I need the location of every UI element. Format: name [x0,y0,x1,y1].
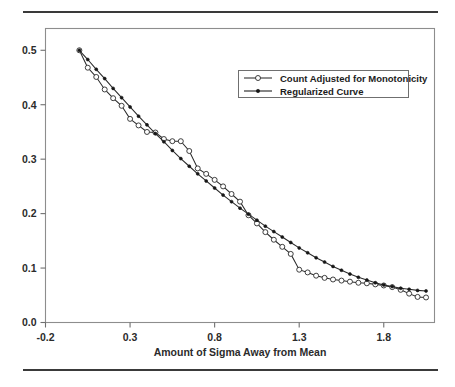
legend-label: Regularized Curve [280,86,363,97]
y-tick-label: 0.2 [22,207,37,219]
x-tick-label: 0.8 [207,331,222,343]
data-point-marker [230,200,233,203]
data-point-marker [213,187,216,190]
y-tick-label: 0.3 [22,153,37,165]
data-point-marker [357,276,360,279]
x-tick-label: 1.8 [376,331,391,343]
data-point-marker [171,149,174,152]
data-point-marker [238,199,243,204]
legend-sample-marker [256,89,259,92]
data-point-marker [322,275,327,280]
y-axis-ticks [41,50,46,322]
data-point-marker [424,295,429,300]
data-point-marker [212,177,217,182]
data-point-marker [425,289,428,292]
data-point-marker [179,157,182,160]
data-point-marker [111,96,116,101]
data-point-marker [221,184,226,189]
y-tick-label: 0.0 [22,316,37,328]
data-point-marker [136,123,141,128]
chart-legend: Count Adjusted for MonotonicityRegulariz… [239,71,429,98]
data-point-marker [297,267,302,272]
data-point-marker [145,123,148,126]
x-tick-label: 1.3 [292,331,307,343]
data-point-marker [399,287,402,290]
data-point-marker [331,277,336,282]
data-point-marker [103,77,106,80]
data-point-marker [271,237,276,242]
x-axis-title: Amount of Sigma Away from Mean [154,346,327,358]
data-point-marker [315,256,318,259]
y-tick-label: 0.5 [22,44,37,56]
data-point-marker [85,65,90,70]
y-tick-label: 0.1 [22,262,37,274]
data-point-marker [128,116,133,121]
data-point-marker [391,285,394,288]
data-point-marker [187,149,192,154]
data-point-marker [264,225,267,228]
data-point-marker [120,96,123,99]
data-point-marker [280,244,285,249]
chart-area: -0.20.30.81.31.8 0.00.10.20.30.40.5 Coun… [0,0,455,387]
x-tick-label: -0.2 [36,331,54,343]
data-point-marker [144,129,149,134]
data-point-marker [340,269,343,272]
data-point-marker [162,140,165,143]
data-point-marker [119,103,124,108]
data-point-marker [348,273,351,276]
y-tick-label: 0.4 [22,99,37,111]
data-point-marker [306,251,309,254]
data-point-marker [407,291,412,296]
data-point-marker [408,288,411,291]
data-point-marker [86,58,89,61]
data-point-marker [298,246,301,249]
data-point-marker [416,289,419,292]
data-point-marker [314,273,319,278]
data-point-marker [129,105,132,108]
data-point-marker [255,219,258,222]
data-point-marker [263,230,268,235]
data-point-marker [229,192,234,197]
data-point-marker [204,171,209,176]
data-point-marker [205,179,208,182]
y-axis-tick-labels: 0.00.10.20.30.40.5 [22,44,37,328]
x-axis-tick-labels: -0.20.30.81.31.8 [36,331,391,343]
data-point-marker [288,251,293,256]
data-point-marker [305,270,310,275]
data-point-marker [374,281,377,284]
data-point-marker [332,265,335,268]
data-point-marker [239,207,242,210]
data-point-marker [170,139,175,144]
data-point-marker [247,213,250,216]
data-point-marker [178,139,183,144]
data-point-marker [339,278,344,283]
data-point-marker [347,279,352,284]
data-point-marker [365,279,368,282]
line-chart: -0.20.30.81.31.8 0.00.10.20.30.40.5 Coun… [0,0,455,387]
data-point-marker [94,74,99,79]
data-point-marker [154,132,157,135]
data-point-marker [415,294,420,299]
data-point-marker [195,166,200,171]
data-point-marker [102,87,107,92]
data-point-marker [112,87,115,90]
data-point-marker [137,115,140,118]
x-axis-ticks [46,323,384,328]
data-point-marker [382,283,385,286]
data-point-marker [95,68,98,71]
data-point-marker [78,49,81,52]
data-point-marker [272,230,275,233]
data-point-marker [196,172,199,175]
legend-sample-marker [256,76,261,81]
data-point-marker [222,194,225,197]
x-tick-label: 0.3 [123,331,138,343]
legend-label: Count Adjusted for Monotonicity [280,73,428,84]
data-point-marker [323,261,326,264]
data-point-marker [188,165,191,168]
figure-container: -0.20.30.81.31.8 0.00.10.20.30.40.5 Coun… [0,0,455,387]
data-point-marker [356,280,361,285]
data-point-marker [289,241,292,244]
data-point-marker [281,236,284,239]
